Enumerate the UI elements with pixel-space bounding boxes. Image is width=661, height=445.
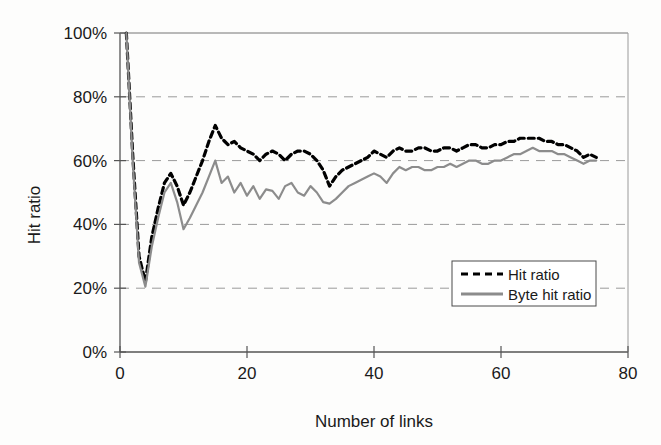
x-tick-label: 60 (492, 364, 511, 383)
hit-ratio-line-chart: 0%20%40%60%80%100% 020406080 Hit ratio N… (0, 0, 661, 445)
legend-label-hit-ratio: Hit ratio (508, 266, 560, 283)
y-tick-label: 40% (73, 215, 107, 234)
y-axis-tick-labels: 0%20%40%60%80%100% (64, 24, 107, 362)
gridlines (120, 33, 628, 288)
x-tick-label: 0 (115, 364, 124, 383)
legend-label-byte-hit-ratio: Byte hit ratio (508, 286, 591, 303)
data-series-layer (126, 33, 596, 287)
chart-legend: Hit ratio Byte hit ratio (452, 261, 596, 306)
x-tick-label: 80 (619, 364, 638, 383)
y-tick-label: 80% (73, 88, 107, 107)
y-tick-label: 20% (73, 279, 107, 298)
x-tick-label: 20 (238, 364, 257, 383)
x-tick-label: 40 (365, 364, 384, 383)
chart-figure: 0%20%40%60%80%100% 020406080 Hit ratio N… (0, 0, 661, 445)
y-tick-label: 60% (73, 152, 107, 171)
y-tick-label: 0% (82, 343, 107, 362)
x-axis-title: Number of links (315, 412, 433, 431)
y-axis-title: Hit ratio (25, 186, 44, 245)
y-tick-label: 100% (64, 24, 107, 43)
series-line-hit-ratio (126, 33, 596, 282)
x-axis-tick-labels: 020406080 (115, 364, 637, 383)
